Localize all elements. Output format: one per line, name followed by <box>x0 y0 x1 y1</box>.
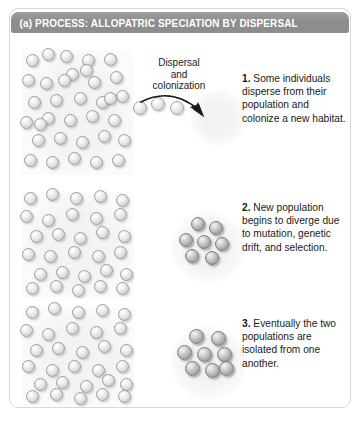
step-1-text: 1. Some individuals disperse from their … <box>242 72 348 125</box>
step-2-text: 2. New population begins to diverge due … <box>242 201 348 254</box>
step-1-body: Some individuals disperse from their pop… <box>242 73 346 124</box>
step-3-body: Eventually the two populations are isola… <box>242 318 336 369</box>
step-1-number: 1. <box>242 73 251 84</box>
step-2-body: New population begins to diverge due to … <box>242 202 339 253</box>
step-3-number: 3. <box>242 318 251 329</box>
allopatric-speciation-figure: (a) PROCESS: ALLOPATRIC SPECIATION BY DI… <box>0 0 362 426</box>
step-3-text: 3. Eventually the two populations are is… <box>242 317 348 370</box>
step-2-number: 2. <box>242 202 251 213</box>
